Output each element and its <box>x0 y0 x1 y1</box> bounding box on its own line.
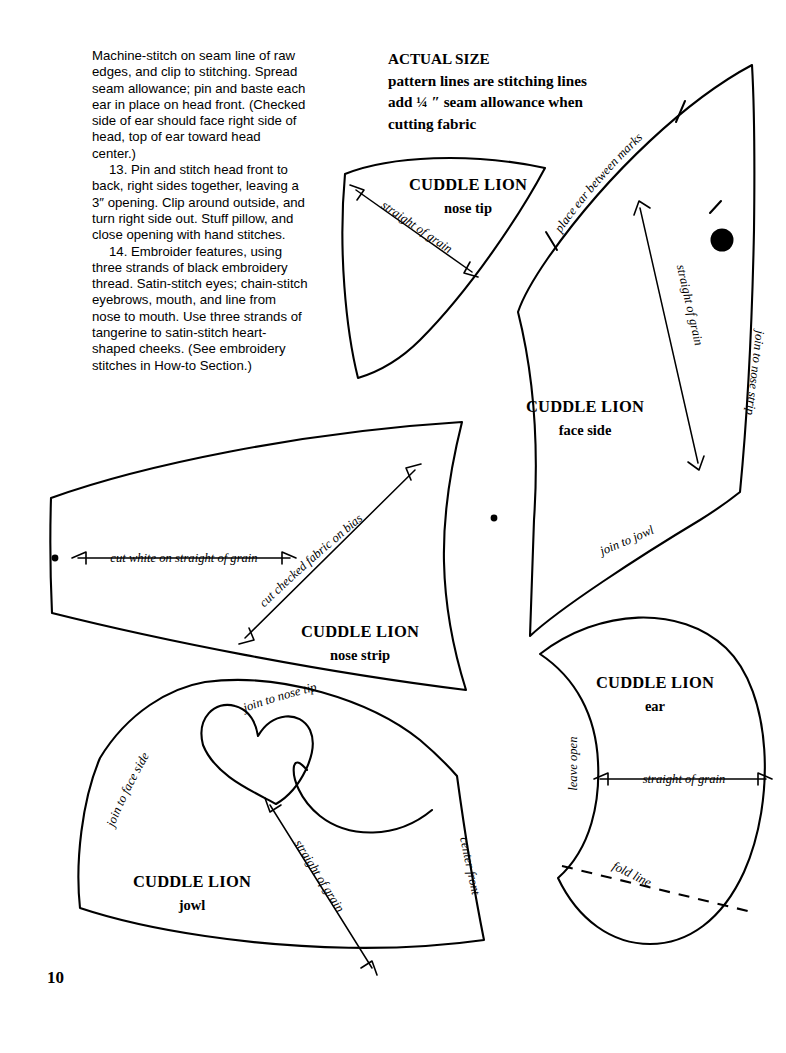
pattern-page: straight of grain CUDDLE LION nose tip p… <box>0 0 786 1053</box>
instruction-paragraph-14: 14. Embroider features, using three stra… <box>92 244 308 374</box>
jowl-title: CUDDLE LION <box>133 872 251 891</box>
nose-strip-subtitle: nose strip <box>330 647 390 663</box>
piece-jowl: join to face side join to nose tip cente… <box>78 680 484 975</box>
nose-tip-subtitle: nose tip <box>444 200 492 216</box>
page-number: 10 <box>47 968 64 988</box>
instruction-paragraph-13: 13. Pin and stitch head front to back, r… <box>92 162 308 243</box>
face-side-eye-mark <box>711 229 734 252</box>
piece-face-side: place ear between marks join to nose str… <box>491 65 768 636</box>
actual-size-heading: ACTUAL SIZE <box>388 48 678 70</box>
piece-ear: CUDDLE LION ear leave open straight of g… <box>540 618 772 944</box>
piece-nose-tip: straight of grain CUDDLE LION nose tip <box>342 158 545 378</box>
face-side-title: CUDDLE LION <box>526 397 644 416</box>
stitching-lines-note: pattern lines are stitching lines <box>388 70 678 92</box>
ear-left-edge-label: leave open <box>566 737 580 791</box>
instructions-text: Machine-stitch on seam line of raw edges… <box>92 48 308 374</box>
nose-tip-title: CUDDLE LION <box>409 175 527 194</box>
nose-strip-grain-label-horizontal: cut white on straight of grain <box>110 551 257 565</box>
ear-grain-label: straight of grain <box>643 772 726 786</box>
nose-strip-title: CUDDLE LION <box>301 622 419 641</box>
face-side-notch-lower <box>546 232 557 250</box>
actual-size-note: ACTUAL SIZE pattern lines are stitching … <box>388 48 678 134</box>
face-side-subtitle: face side <box>559 422 612 438</box>
jowl-outline <box>78 680 484 948</box>
instruction-paragraph-12: Machine-stitch on seam line of raw edges… <box>92 48 308 162</box>
face-side-dot-mark <box>491 515 498 522</box>
face-side-outline <box>518 65 754 636</box>
nose-strip-dot-mark <box>52 555 59 562</box>
piece-nose-strip: cut white on straight of grain cut check… <box>50 422 466 690</box>
seam-allowance-note-line2: cutting fabric <box>388 113 678 135</box>
seam-allowance-note-line1: add ¼ ″ seam allowance when <box>388 91 678 113</box>
ear-title: CUDDLE LION <box>596 673 714 692</box>
ear-subtitle: ear <box>645 698 666 714</box>
jowl-subtitle: jowl <box>178 897 206 913</box>
